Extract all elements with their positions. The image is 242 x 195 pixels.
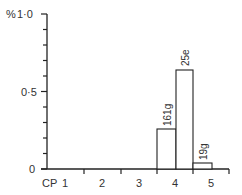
y-tick-label-0-5: 0·5 xyxy=(21,86,37,98)
x-tick-label-3: 3 xyxy=(136,177,142,189)
x-tick-label-5: 5 xyxy=(208,177,214,189)
y-tick-label-0: 0 xyxy=(29,163,35,175)
bar-161g xyxy=(157,129,176,169)
x-ticks xyxy=(84,169,229,174)
bar-label-161g: 161g xyxy=(162,104,173,126)
bar-25e xyxy=(176,70,193,169)
y-unit-label: % xyxy=(6,8,16,20)
bar-label-25e: 25e xyxy=(180,49,191,66)
bar-19g xyxy=(193,163,212,169)
x-axis-prefix: CP xyxy=(42,177,57,189)
histogram-chart: 161g 25e 19g % 1·0 0·5 0 CP 1 2 3 4 5 xyxy=(0,0,242,195)
bar-label-19g: 19g xyxy=(198,143,209,160)
y-ticks xyxy=(41,14,47,169)
y-tick-label-1: 1·0 xyxy=(17,8,33,20)
x-tick-label-1: 1 xyxy=(62,177,68,189)
x-tick-label-4: 4 xyxy=(172,177,178,189)
x-tick-label-2: 2 xyxy=(99,177,105,189)
